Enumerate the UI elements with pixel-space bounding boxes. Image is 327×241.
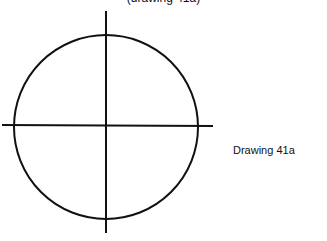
circle-with-crosshair-drawing	[0, 0, 327, 241]
drawing-label: Drawing 41a	[233, 144, 295, 156]
horizontal-axis-line	[2, 125, 213, 126]
